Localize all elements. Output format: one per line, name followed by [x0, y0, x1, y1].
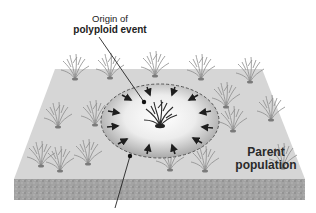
origin-label-line1: Origin of	[50, 13, 170, 24]
origin-label: Origin of polyploid event	[50, 13, 170, 35]
parent-label-line2: population	[226, 159, 306, 172]
lower-pointer-dot	[128, 154, 132, 158]
origin-pointer-dot	[142, 100, 146, 104]
parent-population-label: Parent population	[226, 146, 306, 172]
arrow-icon	[107, 126, 118, 127]
arrow-icon	[202, 127, 213, 128]
zone-ellipse	[101, 84, 219, 158]
soil-side	[14, 179, 305, 200]
origin-label-line2: polyploid event	[50, 24, 170, 35]
polyploid-zone	[101, 84, 219, 158]
